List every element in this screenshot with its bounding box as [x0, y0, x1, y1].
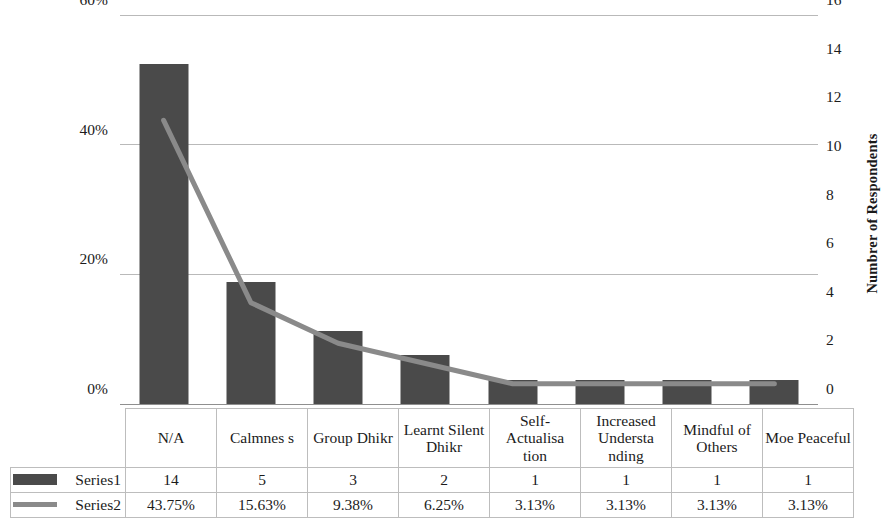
table-category-header: Group Dhikr: [308, 409, 399, 468]
table-cell: 2: [399, 468, 490, 493]
table-category-header: Increased Understa nding: [581, 409, 672, 468]
y-tick-left-60%: 60%: [40, 0, 108, 8]
table-header-row: N/ACalmnes sGroup DhikrLearnt Silent Dhi…: [11, 409, 854, 468]
table-category-header: Moe Peaceful: [763, 409, 854, 468]
y-axis-right-ticks: 0246810121416: [826, 0, 862, 389]
plot-area: [120, 15, 818, 404]
table-row: Series243.75%15.63%9.38%6.25%3.13%3.13%3…: [11, 493, 854, 518]
y-tick-right-10: 10: [826, 138, 842, 154]
y-tick-right-8: 8: [826, 187, 834, 203]
table-category-header: Mindful of Others: [672, 409, 763, 468]
table-category-header: Learnt Silent Dhikr: [399, 409, 490, 468]
y-tick-right-12: 12: [826, 89, 842, 105]
table-cell: 3.13%: [490, 493, 581, 518]
legend-label: Series2: [60, 496, 123, 513]
y-tick-right-2: 2: [826, 332, 834, 348]
y-tick-left-20%: 20%: [40, 251, 108, 267]
y-axis-left-ticks: 0%20%40%60%: [40, 0, 108, 389]
table-cell: 14: [126, 468, 217, 493]
y-tick-right-0: 0: [826, 381, 834, 397]
table-cell: 9.38%: [308, 493, 399, 518]
table-category-header: Self- Actualisa tion: [490, 409, 581, 468]
table-cell: 1: [672, 468, 763, 493]
table-cell: 1: [763, 468, 854, 493]
y-tick-right-6: 6: [826, 235, 834, 251]
y-tick-right-4: 4: [826, 284, 834, 300]
legend-entry-series1: Series1: [11, 468, 126, 493]
line-path: [164, 120, 775, 383]
table-cell: 3: [308, 468, 399, 493]
legend-swatch-line-icon: [13, 502, 57, 507]
y-tick-right-14: 14: [826, 41, 842, 57]
table-cell: 6.25%: [399, 493, 490, 518]
legend-label: Series1: [60, 471, 123, 488]
table-category-header: N/A: [126, 409, 217, 468]
table-category-header: Calmnes s: [217, 409, 308, 468]
table-cell: 3.13%: [763, 493, 854, 518]
legend-entry-series2: Series2: [11, 493, 126, 518]
table-cell: 5: [217, 468, 308, 493]
table-cell: 3.13%: [581, 493, 672, 518]
table-row: Series1145321111: [11, 468, 854, 493]
chart-data-table: N/ACalmnes sGroup DhikrLearnt Silent Dhi…: [10, 408, 854, 518]
table-cell: 1: [581, 468, 672, 493]
table-cell: 15.63%: [217, 493, 308, 518]
y-axis-right-title: Numbrer of Respondents: [864, 99, 881, 329]
y-tick-right-16: 16: [826, 0, 842, 8]
y-tick-left-40%: 40%: [40, 122, 108, 138]
chart-figure: Percentages Numbrer of Respondents 0%20%…: [0, 0, 891, 528]
table-cell: 43.75%: [126, 493, 217, 518]
y-tick-left-0%: 0%: [40, 381, 108, 397]
table-cell: 1: [490, 468, 581, 493]
table-cell: 3.13%: [672, 493, 763, 518]
line-series-series2: [120, 15, 818, 404]
legend-swatch-bar-icon: [13, 474, 57, 485]
table-corner-cell: [11, 409, 126, 468]
